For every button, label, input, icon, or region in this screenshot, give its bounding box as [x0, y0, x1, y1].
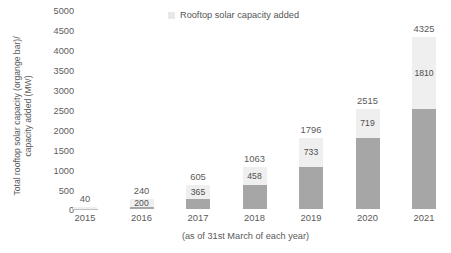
- x-axis-caption: (as of 31st March of each year): [0, 231, 451, 241]
- y-tick-2500: 2500: [38, 106, 74, 116]
- legend: Rooftop solar capacity added: [168, 10, 299, 20]
- x-tick-2016: 2016: [115, 212, 169, 223]
- bar-stack-2021: [412, 37, 436, 209]
- y-axis-title: Total rooftop solar capacity (organge ba…: [12, 16, 34, 216]
- bar-added-label-2019: 733: [291, 147, 331, 157]
- bar-segment-base-2017: [186, 199, 210, 209]
- bar-total-label-2018: 1063: [225, 153, 285, 164]
- x-tick-2020: 2020: [341, 212, 395, 223]
- axis-baseline-tick: [72, 209, 98, 210]
- bar-total-label-2021: 4325: [394, 23, 451, 34]
- y-tick-3000: 3000: [38, 86, 74, 96]
- rooftop-solar-bar-chart: Total rooftop solar capacity (organge ba…: [0, 0, 451, 253]
- bar-total-label-2020: 2515: [338, 95, 398, 106]
- bar-segment-base-2019: [299, 167, 323, 209]
- bar-added-label-2018: 458: [235, 171, 275, 181]
- x-tick-2015: 2015: [58, 212, 112, 223]
- x-tick-2017: 2017: [171, 212, 225, 223]
- x-tick-2019: 2019: [284, 212, 338, 223]
- bar-added-label-2020: 719: [348, 118, 388, 128]
- legend-label-capacity-added: Rooftop solar capacity added: [180, 10, 299, 20]
- bar-added-label-2017: 365: [178, 187, 218, 197]
- legend-swatch-capacity-added: [168, 12, 175, 19]
- bar-segment-base-2020: [356, 138, 380, 209]
- bar-total-label-2019: 1796: [281, 124, 341, 135]
- bar-total-label-2015: 40: [55, 193, 115, 204]
- bar-segment-added-2015: [73, 207, 97, 209]
- bar-added-label-2021: 1810: [404, 68, 444, 78]
- y-tick-5000: 5000: [38, 6, 74, 16]
- bar-segment-base-2018: [243, 185, 267, 209]
- x-tick-2021: 2021: [397, 212, 451, 223]
- y-tick-4500: 4500: [38, 26, 74, 36]
- y-tick-1500: 1500: [38, 146, 74, 156]
- bar-segment-base-2021: [412, 109, 436, 209]
- bar-stack-2015: [73, 207, 97, 209]
- bar-added-label-2016: 200: [122, 198, 162, 208]
- bar-total-label-2017: 605: [168, 171, 228, 182]
- y-tick-2000: 2000: [38, 126, 74, 136]
- bar-total-label-2016: 240: [112, 185, 172, 196]
- y-tick-4000: 4000: [38, 46, 74, 56]
- x-tick-2018: 2018: [228, 212, 282, 223]
- y-tick-3500: 3500: [38, 66, 74, 76]
- y-tick-1000: 1000: [38, 166, 74, 176]
